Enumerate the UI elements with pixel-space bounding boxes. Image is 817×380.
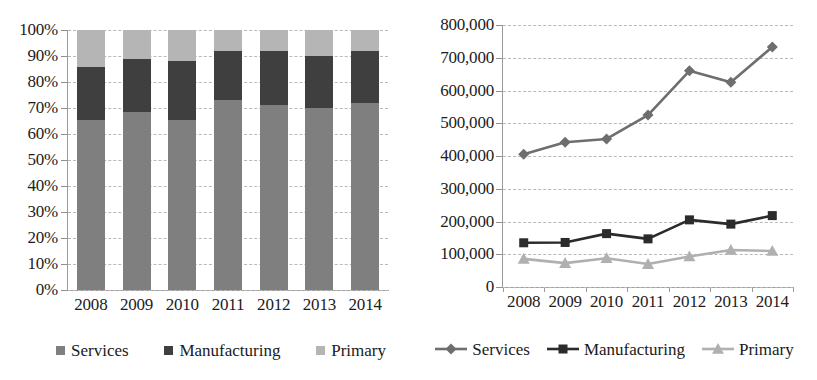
right-chart-y-tickmark bbox=[496, 254, 502, 255]
data-point-marker-square bbox=[726, 220, 735, 229]
right-chart-y-tick-label: 300,000 bbox=[410, 180, 494, 197]
legend-label: Services bbox=[472, 341, 530, 358]
right-chart-y-tickmark bbox=[496, 189, 502, 190]
left-chart-y-tickmark bbox=[61, 238, 67, 239]
legend-item-manufacturing[interactable]: Manufacturing bbox=[164, 342, 280, 359]
left-chart-y-tickmark bbox=[61, 134, 67, 135]
bar-segment-primary bbox=[168, 30, 196, 61]
stacked-bar bbox=[123, 30, 151, 290]
bar-segment-manufacturing bbox=[123, 59, 151, 112]
left-chart-y-tickmark bbox=[61, 160, 67, 161]
bar-segment-manufacturing bbox=[214, 51, 242, 100]
right-chart-y-tickmark bbox=[496, 25, 502, 26]
series-line bbox=[524, 47, 773, 154]
left-chart-x-tick-label: 2013 bbox=[297, 296, 341, 313]
line-chart-panel: 0100,000200,000300,000400,000500,000600,… bbox=[410, 0, 817, 380]
bar-segment-manufacturing bbox=[260, 51, 288, 106]
legend-item-services[interactable]: Services bbox=[56, 342, 129, 359]
data-point-marker-square bbox=[768, 211, 777, 220]
bar-segment-services bbox=[260, 105, 288, 290]
right-chart-y-tickmark bbox=[496, 58, 502, 59]
data-point-marker-diamond bbox=[601, 133, 612, 144]
bar-segment-manufacturing bbox=[305, 56, 333, 108]
left-chart-y-tickmark bbox=[61, 290, 67, 291]
right-chart-y-tick-label: 800,000 bbox=[410, 16, 494, 33]
data-point-marker-square bbox=[558, 345, 567, 354]
left-chart-y-tick-label: 70% bbox=[0, 99, 58, 116]
right-chart-legend: ServicesManufacturingPrimary bbox=[416, 336, 812, 362]
legend-label: Manufacturing bbox=[584, 341, 685, 358]
right-chart-y-tickmark bbox=[496, 123, 502, 124]
right-chart-x-tick-label: 2014 bbox=[751, 293, 793, 310]
stacked-bar bbox=[77, 30, 105, 290]
right-chart-y-tickmark bbox=[496, 287, 502, 288]
right-chart-y-tick-label: 200,000 bbox=[410, 213, 494, 230]
legend-item-manufacturing[interactable]: Manufacturing bbox=[546, 341, 685, 358]
left-chart-x-tick-label: 2008 bbox=[69, 296, 113, 313]
stacked-bar bbox=[305, 30, 333, 290]
right-chart-y-tick-label: 0 bbox=[410, 278, 494, 295]
bar-segment-primary bbox=[123, 30, 151, 59]
left-chart-y-tickmark bbox=[61, 212, 67, 213]
data-point-marker-diamond bbox=[446, 344, 457, 355]
bar-segment-primary bbox=[214, 30, 242, 51]
legend-item-primary[interactable]: Primary bbox=[701, 341, 794, 358]
left-chart-y-tickmark bbox=[61, 108, 67, 109]
legend-swatch-icon bbox=[56, 346, 65, 355]
legend-marker-diamond-icon bbox=[434, 342, 468, 356]
left-chart-x-tick-label: 2011 bbox=[206, 296, 250, 313]
series-manufacturing bbox=[519, 211, 777, 247]
bar-segment-services bbox=[168, 120, 196, 290]
right-chart-x-tickmark bbox=[793, 287, 794, 292]
data-point-marker-diamond bbox=[560, 137, 571, 148]
left-chart-y-tickmark bbox=[61, 30, 67, 31]
right-chart-x-tick-label: 2013 bbox=[710, 293, 752, 310]
left-chart-y-tickmark bbox=[61, 56, 67, 57]
legend-item-services[interactable]: Services bbox=[434, 341, 530, 358]
bar-segment-services bbox=[214, 100, 242, 290]
left-chart-y-tick-label: 80% bbox=[0, 73, 58, 90]
right-chart-x-axis-labels: 2008200920102011201220132014 bbox=[503, 293, 793, 317]
right-chart-y-tickmark bbox=[496, 156, 502, 157]
bar-segment-primary bbox=[351, 30, 379, 51]
right-chart-y-tick-label: 700,000 bbox=[410, 49, 494, 66]
right-chart-y-tick-label: 100,000 bbox=[410, 245, 494, 262]
left-chart-y-tickmark bbox=[61, 264, 67, 265]
stacked-bar bbox=[214, 30, 242, 290]
stacked-bar bbox=[351, 30, 379, 290]
legend-label: Primary bbox=[331, 342, 386, 359]
left-chart-y-tick-label: 30% bbox=[0, 203, 58, 220]
data-point-marker-square bbox=[644, 234, 653, 243]
left-chart-y-tick-label: 10% bbox=[0, 255, 58, 272]
stacked-bar-chart-panel: 0%10%20%30%40%50%60%70%80%90%100% 200820… bbox=[0, 0, 410, 380]
legend-item-primary[interactable]: Primary bbox=[316, 342, 386, 359]
bar-segment-services bbox=[123, 112, 151, 290]
stacked-bar bbox=[168, 30, 196, 290]
bar-segment-manufacturing bbox=[351, 51, 379, 103]
legend-marker-triangle-icon bbox=[701, 342, 735, 356]
right-chart-y-tick-label: 400,000 bbox=[410, 147, 494, 164]
legend-swatch-icon bbox=[164, 346, 173, 355]
left-chart-y-tick-label: 50% bbox=[0, 151, 58, 168]
legend-label: Services bbox=[71, 342, 129, 359]
bar-segment-primary bbox=[77, 30, 105, 67]
left-chart-x-tick-label: 2010 bbox=[160, 296, 204, 313]
left-chart-x-tick-label: 2012 bbox=[252, 296, 296, 313]
bar-segment-manufacturing bbox=[168, 61, 196, 120]
stacked-bar bbox=[260, 30, 288, 290]
legend-label: Manufacturing bbox=[179, 342, 280, 359]
right-chart-x-tick-label: 2010 bbox=[586, 293, 628, 310]
left-chart-x-tick-label: 2009 bbox=[115, 296, 159, 313]
data-point-marker-square bbox=[685, 215, 694, 224]
left-chart-legend: ServicesManufacturingPrimary bbox=[56, 338, 386, 362]
left-chart-y-tick-label: 60% bbox=[0, 125, 58, 142]
gridline bbox=[503, 287, 793, 288]
left-chart-y-tick-label: 40% bbox=[0, 177, 58, 194]
series-primary bbox=[518, 244, 779, 269]
data-point-marker-diamond bbox=[518, 149, 529, 160]
right-chart-x-tick-label: 2009 bbox=[544, 293, 586, 310]
right-chart-x-tick-label: 2011 bbox=[627, 293, 669, 310]
bar-segment-primary bbox=[305, 30, 333, 56]
right-chart-y-tickmark bbox=[496, 91, 502, 92]
legend-label: Primary bbox=[739, 341, 794, 358]
